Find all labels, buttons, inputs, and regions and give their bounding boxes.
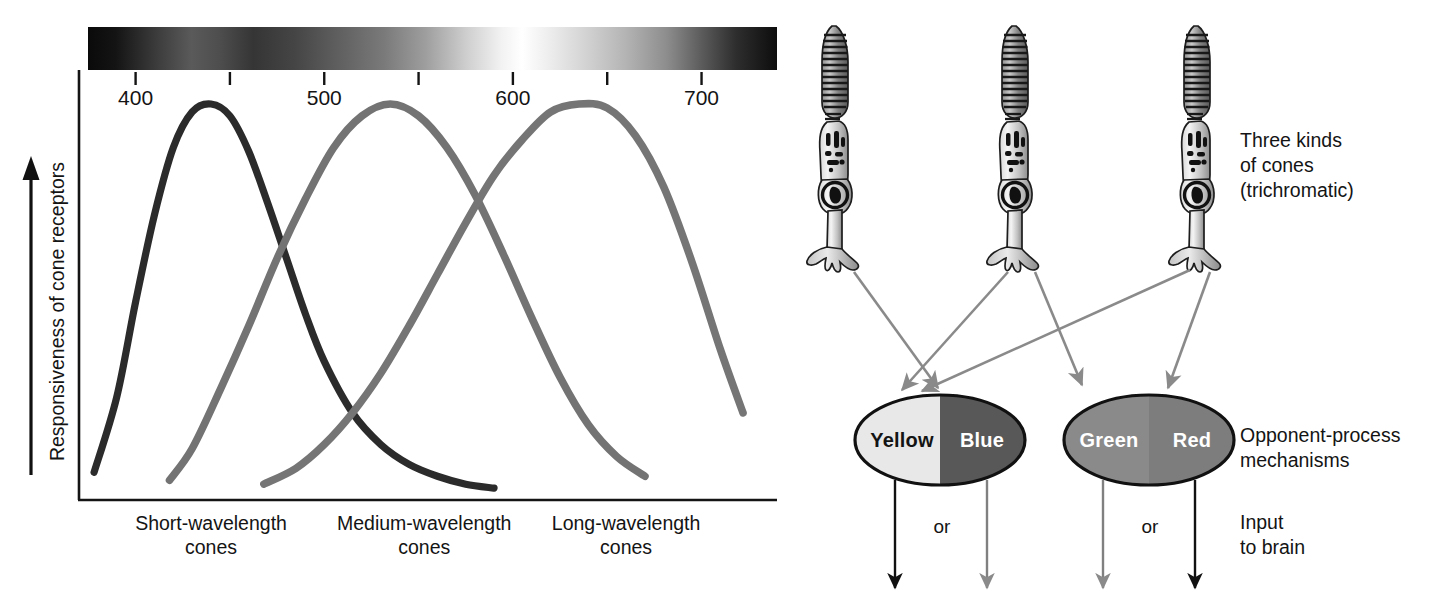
y-axis-arrow [18,150,44,480]
diagram-canvas [790,0,1435,603]
sensitivity-curve [94,104,494,488]
or-label-right: or [1142,516,1159,538]
color-vision-figure: 400500600700 Responsiveness of cone rece… [0,0,1435,603]
channel-label-yellow: Yellow [870,429,933,452]
channel-label-red: Red [1173,429,1211,452]
x-axis-tick-label: 600 [495,86,530,110]
sensitivity-curve [170,104,645,480]
category-label-line1: Medium-wavelength [337,512,512,536]
opponent-process-diagram: Yellow Blue Green Red or or Three kinds … [790,0,1435,603]
x-axis-ticks [136,72,702,85]
cone-cell-short [807,26,859,272]
cone-response-chart: 400500600700 Responsiveness of cone rece… [0,0,800,603]
category-label-line2: cones [552,536,701,560]
cone-cell-long [1169,26,1221,272]
note-input-to-brain: Input to brain [1240,510,1305,560]
y-axis-title: Responsiveness of cone receptors [46,147,69,477]
sensitivity-curve [264,104,743,485]
x-axis-category-label: Medium-wavelengthcones [337,512,512,560]
x-axis-category-label: Long-wavelengthcones [552,512,701,560]
x-axis-category-label: Short-wavelengthcones [135,512,287,560]
note-three-kinds-of-cones: Three kinds of cones (trichromatic) [1240,128,1354,202]
note-opponent-process: Opponent-process mechanisms [1240,423,1400,473]
category-label-line2: cones [135,536,287,560]
channel-label-green: Green [1080,429,1139,452]
cone-sensitivity-curves [94,104,743,489]
category-label-line1: Short-wavelength [135,512,287,536]
cone-cell-medium [987,26,1039,272]
x-axis-tick-label: 400 [118,86,153,110]
x-axis-tick-label: 700 [684,86,719,110]
category-label-line2: cones [337,536,512,560]
x-axis-tick-label: 500 [307,86,342,110]
channel-label-blue: Blue [960,429,1004,452]
cone-to-channel-arrows [854,270,1210,391]
or-label-left: or [934,516,951,538]
category-label-line1: Long-wavelength [552,512,701,536]
